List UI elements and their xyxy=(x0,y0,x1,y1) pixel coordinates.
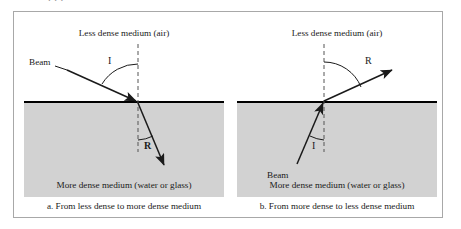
panel-b-refracted-angle-label: R xyxy=(365,55,372,66)
panel-b-caption: b. From more dense to less dense medium xyxy=(237,201,437,211)
clipped-text-strip: . . . xyxy=(0,0,461,7)
panel-a-refracted-ray xyxy=(138,103,164,165)
panel-a-refracted-angle-label: R xyxy=(144,140,152,151)
clipped-text: . . . xyxy=(48,0,64,3)
panel-a-beam-label: Beam xyxy=(29,57,50,67)
panel-b-incident-ray xyxy=(297,103,323,164)
panel-a-incident-angle-label: I xyxy=(108,55,111,66)
panel-a-diagram: Beam I R xyxy=(24,12,224,202)
figure-frame: Less dense medium (air) More dense mediu… xyxy=(13,11,443,218)
panel-a: Less dense medium (air) More dense mediu… xyxy=(24,12,224,217)
panel-b-refracted-ray xyxy=(324,70,392,101)
panel-b-refracted-angle-arc xyxy=(324,62,361,87)
panel-b-diagram: Beam I R xyxy=(237,12,437,202)
panel-a-caption: a. From less dense to more dense medium xyxy=(24,201,224,211)
panel-b-beam-label: Beam xyxy=(267,170,288,180)
panel-b: Less dense medium (air) More dense mediu… xyxy=(237,12,437,217)
panel-a-beam-leader-line xyxy=(55,66,67,70)
panel-a-incident-ray xyxy=(67,70,136,101)
panel-b-incident-angle-label: I xyxy=(312,140,315,151)
panel-a-incident-angle-arc xyxy=(102,64,138,84)
